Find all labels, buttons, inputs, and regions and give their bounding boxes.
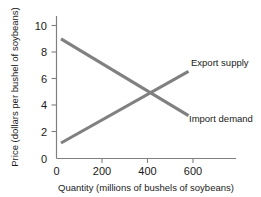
x-tick-label-0: 0: [53, 165, 59, 177]
y-axis-title: Price (dollars per bushel of soybeans): [9, 7, 20, 166]
y-tick-label-2: 2: [41, 126, 47, 138]
y-tick-label-4: 4: [41, 99, 47, 111]
x-tick-label-400: 400: [138, 165, 156, 177]
export-supply-line: [61, 71, 189, 143]
x-tick-label-600: 600: [184, 165, 202, 177]
import-demand-label: Import demand: [189, 113, 253, 124]
chart-canvas: 10 8 6 4 2 0 0 200 400 600 Export supply…: [0, 0, 261, 197]
y-tick-label-6: 6: [41, 73, 47, 85]
y-tick-label-8: 8: [41, 46, 47, 58]
x-tick-label-200: 200: [93, 165, 111, 177]
y-tick-label-10: 10: [35, 20, 47, 32]
y-tick-label-0: 0: [41, 153, 47, 165]
import-demand-line: [61, 39, 189, 116]
x-axis-title: Quantity (millions of bushels of soybean…: [58, 182, 234, 193]
supply-demand-chart: 10 8 6 4 2 0 0 200 400 600 Export supply…: [0, 0, 261, 197]
export-supply-label: Export supply: [191, 57, 249, 68]
